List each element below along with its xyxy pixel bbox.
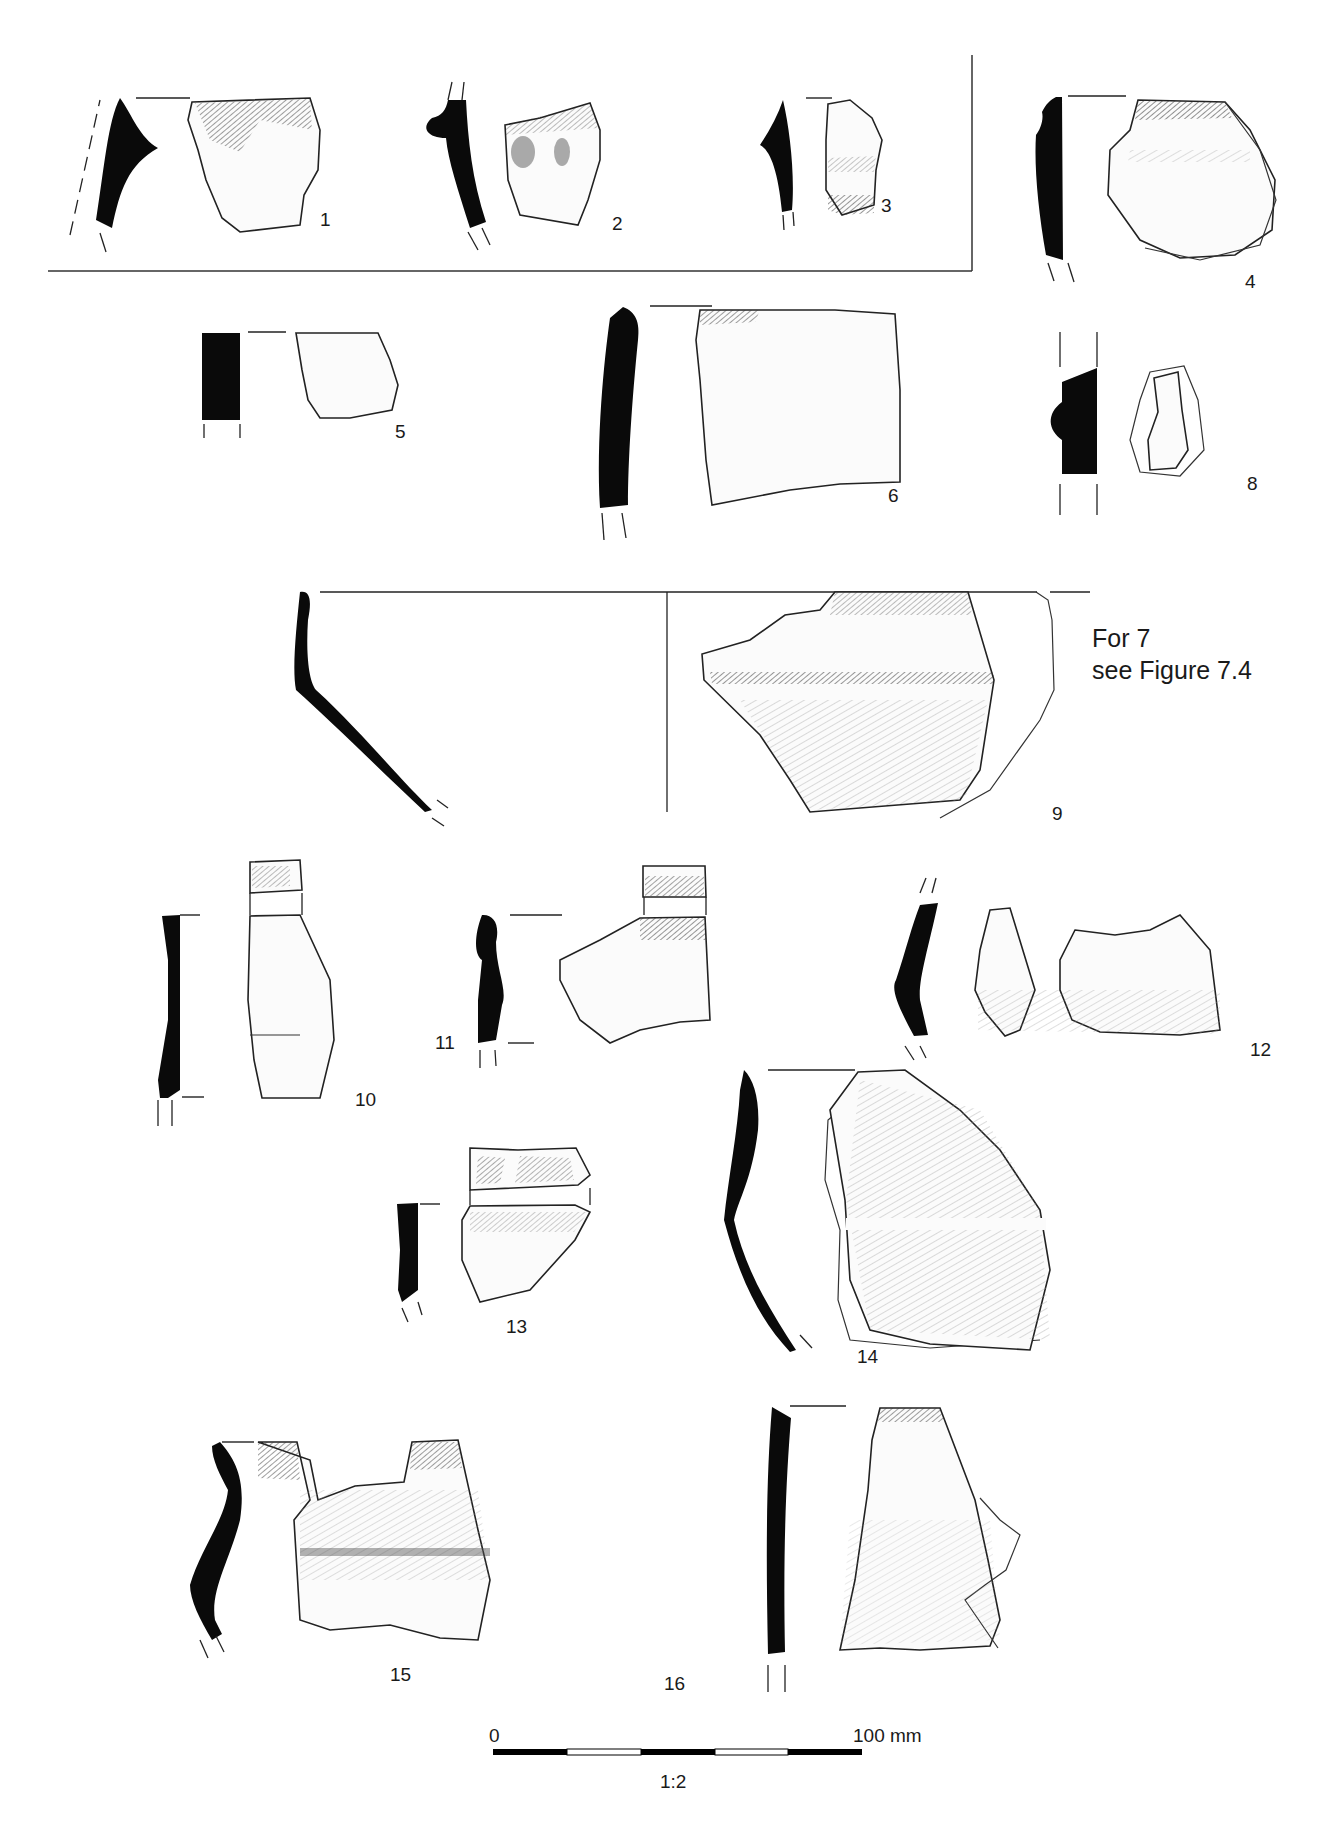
scale-start-label: 0 bbox=[489, 1726, 500, 1745]
fragment-label-13: 13 bbox=[506, 1317, 527, 1336]
fragment-3-drawing bbox=[760, 98, 882, 230]
pottery-drawings bbox=[0, 0, 1330, 1825]
cross-reference-line-2: see Figure 7.4 bbox=[1092, 654, 1252, 686]
pottery-plate: 1 2 3 4 5 6 8 9 10 11 12 13 14 15 16 For… bbox=[0, 0, 1330, 1825]
fragment-label-14: 14 bbox=[857, 1347, 878, 1366]
cross-reference-line-1: For 7 bbox=[1092, 622, 1252, 654]
fragment-label-16: 16 bbox=[664, 1674, 685, 1693]
scale-end-label: 100 mm bbox=[853, 1726, 922, 1745]
fragment-13-drawing bbox=[397, 1148, 590, 1322]
scale-bar bbox=[493, 1749, 862, 1755]
fragment-8-drawing bbox=[1051, 332, 1204, 515]
fragment-12-drawing bbox=[894, 878, 1220, 1060]
fragment-label-9: 9 bbox=[1052, 804, 1063, 823]
fragment-1-drawing bbox=[70, 98, 320, 252]
fragment-label-12: 12 bbox=[1250, 1040, 1271, 1059]
fragment-label-8: 8 bbox=[1247, 474, 1258, 493]
fragment-5-drawing bbox=[202, 332, 398, 438]
fragment-label-1: 1 bbox=[320, 210, 331, 229]
fragment-label-15: 15 bbox=[390, 1665, 411, 1684]
fragment-15-drawing bbox=[190, 1440, 490, 1658]
fragment-6-drawing bbox=[599, 306, 900, 540]
fragment-10-drawing bbox=[158, 860, 334, 1126]
scale-ratio-label: 1:2 bbox=[660, 1772, 686, 1791]
fragment-label-11: 11 bbox=[435, 1033, 455, 1052]
fragment-label-4: 4 bbox=[1245, 272, 1256, 291]
fragment-2-drawing bbox=[426, 82, 600, 250]
fragment-4-drawing bbox=[1035, 96, 1276, 282]
fragment-11-drawing bbox=[476, 866, 710, 1068]
fragment-9-drawing bbox=[294, 592, 1090, 826]
fragment-label-10: 10 bbox=[355, 1090, 376, 1109]
cross-reference-note: For 7 see Figure 7.4 bbox=[1092, 622, 1252, 686]
fragment-label-6: 6 bbox=[888, 486, 899, 505]
fragment-label-2: 2 bbox=[612, 214, 623, 233]
fragment-label-5: 5 bbox=[395, 422, 406, 441]
fragment-label-3: 3 bbox=[881, 196, 892, 215]
fragment-14-drawing bbox=[724, 1070, 1050, 1352]
fragment-16-drawing bbox=[767, 1406, 1020, 1692]
